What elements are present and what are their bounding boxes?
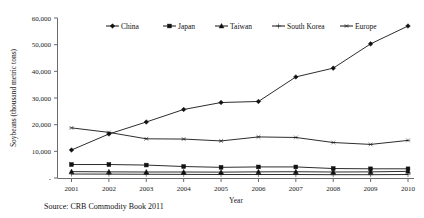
data-point-marker <box>144 137 149 141</box>
data-point-marker <box>294 165 298 169</box>
x-tick-label: 2007 <box>289 185 304 193</box>
x-tick-label: 2008 <box>326 185 341 193</box>
y-tick-label: 10,000 <box>32 148 52 156</box>
data-point-marker <box>69 126 74 130</box>
x-tick-label: 2003 <box>139 185 154 193</box>
data-point-marker <box>182 165 186 169</box>
data-point-marker <box>144 163 148 167</box>
data-point-marker <box>181 107 186 112</box>
y-axis-ticks <box>54 18 58 178</box>
y-tick-label: 20,000 <box>32 121 52 129</box>
x-tick-label: 2001 <box>65 185 80 193</box>
series-path <box>72 171 409 172</box>
legend-marker <box>110 24 115 29</box>
series-europe <box>69 126 410 146</box>
series-group <box>69 24 411 177</box>
data-point-marker <box>69 148 74 153</box>
y-tick-label: 40,000 <box>32 68 52 76</box>
x-axis-title: Year <box>229 196 243 205</box>
legend-item-label: South Korea <box>287 22 325 31</box>
data-point-marker <box>294 75 299 80</box>
series-taiwan <box>69 169 410 174</box>
x-axis-ticks <box>72 179 409 183</box>
series-path <box>72 128 409 145</box>
y-tick-label: 30,000 <box>32 95 52 103</box>
x-tick-label: 2006 <box>251 185 266 193</box>
legend-item-label: Taiwan <box>230 22 252 31</box>
data-point-marker <box>257 165 261 169</box>
legend-item-taiwan[interactable]: Taiwan <box>215 22 252 31</box>
series-path <box>72 174 409 175</box>
source-caption: Source: CRB Commodity Book 2011 <box>44 202 164 211</box>
data-point-marker <box>331 66 336 71</box>
data-point-marker <box>294 136 299 140</box>
data-point-marker <box>368 42 373 47</box>
y-tick-label: 60,000 <box>32 15 52 23</box>
legend-marker <box>168 24 172 28</box>
data-point-marker <box>406 24 411 29</box>
legend-item-label: China <box>121 22 140 31</box>
legend-item-japan[interactable]: Japan <box>163 22 195 31</box>
data-point-marker <box>181 137 186 141</box>
data-point-marker <box>331 141 336 145</box>
data-point-marker <box>219 139 224 143</box>
y-axis-tick-labels: -10,00020,00030,00040,00050,00060,000 <box>32 15 52 183</box>
series-china <box>69 24 410 153</box>
legend-item-europe[interactable]: Europe <box>340 22 377 31</box>
x-tick-label: 2010 <box>401 185 416 193</box>
legend-item-label: Europe <box>355 22 377 31</box>
series-japan <box>70 163 410 171</box>
line-chart-canvas: -10,00020,00030,00040,00050,00060,000 20… <box>0 0 424 218</box>
data-point-marker <box>107 163 111 167</box>
legend-item-south-korea[interactable]: South Korea <box>272 22 325 31</box>
legend-marker <box>344 24 349 28</box>
data-point-marker <box>256 99 261 104</box>
x-tick-label: 2002 <box>102 185 117 193</box>
data-point-marker <box>368 143 373 147</box>
y-tick-label: - <box>49 175 52 183</box>
y-axis-title: Soybeans (thousand metric tons) <box>9 48 18 147</box>
data-point-marker <box>406 139 411 143</box>
series-path <box>72 165 409 169</box>
legend-marker <box>276 24 281 29</box>
x-tick-label: 2005 <box>214 185 229 193</box>
chart-figure: -10,00020,00030,00040,00050,00060,000 20… <box>0 0 424 218</box>
data-point-marker <box>70 163 74 167</box>
chart-legend: ChinaJapanTaiwanSouth KoreaEurope <box>106 22 377 31</box>
data-point-marker <box>144 120 149 125</box>
legend-item-label: Japan <box>178 22 195 31</box>
x-tick-label: 2009 <box>364 185 379 193</box>
x-tick-label: 2004 <box>177 185 192 193</box>
data-point-marker <box>219 165 223 169</box>
series-path <box>72 26 409 150</box>
x-axis-tick-labels: 2001200220032004200520062007200820092010 <box>65 185 416 193</box>
data-point-marker <box>256 135 261 139</box>
legend-item-china[interactable]: China <box>106 22 140 31</box>
y-tick-label: 50,000 <box>32 41 52 49</box>
data-point-marker <box>219 100 224 105</box>
